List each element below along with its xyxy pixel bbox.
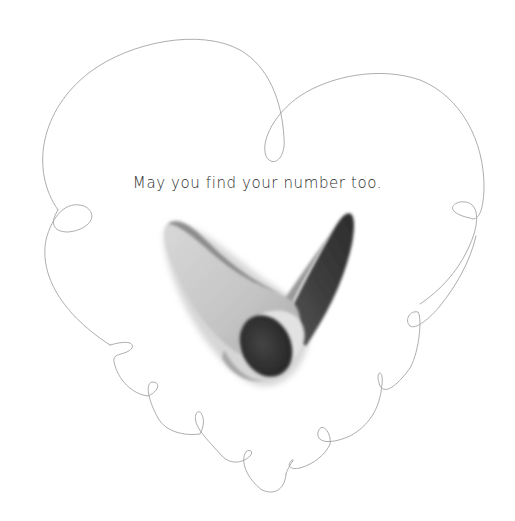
number-figure — [164, 213, 354, 386]
caption-text: May you find your number too. — [0, 174, 515, 192]
heart-outline — [43, 39, 484, 492]
picture-book-page: May you find your number too. — [0, 0, 515, 521]
illustration — [0, 0, 515, 521]
